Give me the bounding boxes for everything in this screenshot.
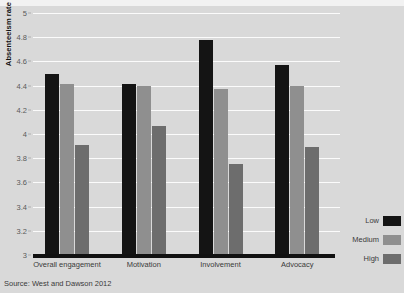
x-axis-line — [33, 254, 335, 258]
x-axis-category-label: Overall engagement — [29, 260, 105, 270]
legend-color-swatch — [383, 235, 401, 245]
bar — [60, 84, 74, 255]
y-axis-tick-mark — [28, 255, 31, 256]
y-axis-tick-mark — [28, 182, 31, 183]
x-axis-category-label: Involvement — [183, 260, 259, 270]
bar-group — [33, 13, 110, 255]
y-axis-tick-mark — [28, 109, 31, 110]
x-axis-category-label: Motivation — [106, 260, 182, 270]
legend-item[interactable]: Low — [345, 212, 401, 229]
bars-layer — [33, 13, 340, 255]
y-axis-tick-mark — [28, 37, 31, 38]
legend-color-swatch — [383, 216, 401, 226]
bar — [152, 126, 166, 255]
y-axis-tick-label: 3 — [23, 251, 27, 260]
bar — [214, 89, 228, 255]
y-axis-tick-label: 4 — [23, 130, 27, 139]
y-axis-tick-label: 4.2 — [17, 105, 27, 114]
bar — [122, 84, 136, 255]
y-axis-tick-label: 3.6 — [17, 178, 27, 187]
bar — [199, 40, 213, 255]
y-axis-tick-mark — [28, 61, 31, 62]
y-axis-tick-label: 4.8 — [17, 33, 27, 42]
chart-legend: LowMediumHigh — [345, 212, 401, 269]
plot-area — [33, 13, 340, 255]
y-axis-tick-label: 4.6 — [17, 57, 27, 66]
y-axis-tick-label: 3.2 — [17, 226, 27, 235]
y-axis-tick-label: 3.8 — [17, 154, 27, 163]
y-axis-tick-mark — [28, 230, 31, 231]
legend-item[interactable]: High — [345, 250, 401, 267]
legend-item[interactable]: Medium — [345, 231, 401, 248]
bar-group — [110, 13, 187, 255]
y-axis-tick-mark — [28, 13, 31, 14]
y-axis-tick-mark — [28, 158, 31, 159]
y-axis-tick-mark — [28, 206, 31, 207]
y-axis-tick-mark — [28, 134, 31, 135]
bar — [137, 86, 151, 255]
bar — [75, 145, 89, 255]
source-note: Source: West and Dawson 2012 — [4, 279, 111, 288]
bar — [229, 164, 243, 255]
legend-item-label: Low — [365, 216, 379, 225]
chart-figure: Absenteeism rate (%) 33.23.43.63.844.24.… — [0, 0, 404, 293]
legend-item-label: Medium — [352, 235, 379, 244]
bar-group — [263, 13, 340, 255]
top-band — [0, 0, 404, 6]
legend-item-label: High — [364, 254, 379, 263]
bar — [45, 74, 59, 256]
bar — [305, 147, 319, 255]
y-axis-tick-label: 5 — [23, 9, 27, 18]
bar — [290, 86, 304, 255]
legend-color-swatch — [383, 254, 401, 264]
y-axis-tick-mark — [28, 85, 31, 86]
y-axis-tick-labels: 33.23.43.63.844.24.44.64.85 — [0, 13, 31, 255]
y-axis-tick-label: 4.4 — [17, 81, 27, 90]
y-axis-tick-label: 3.4 — [17, 202, 27, 211]
bar-group — [187, 13, 264, 255]
bar — [275, 65, 289, 255]
x-axis-category-label: Advocacy — [259, 260, 335, 270]
